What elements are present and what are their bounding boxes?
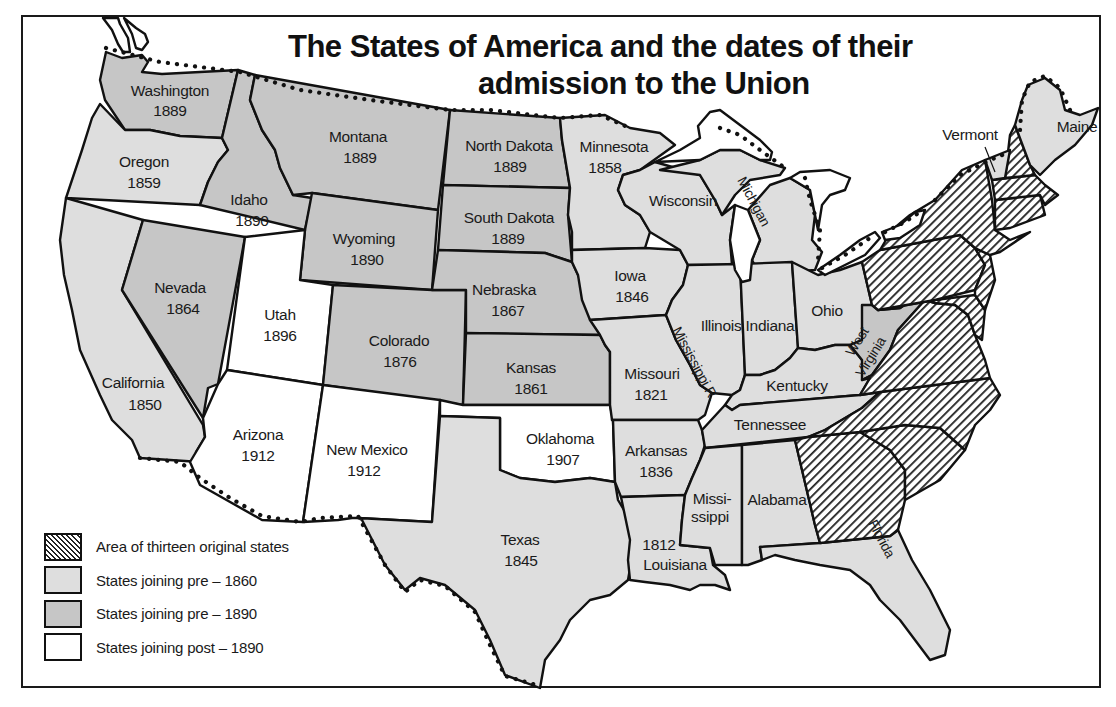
label-ohio: Ohio xyxy=(811,302,843,319)
label-iowa: Iowa xyxy=(614,267,646,284)
label-nevada-year: 1864 xyxy=(166,300,200,317)
label-vermont: Vermont xyxy=(942,126,999,143)
label-missouri-year: 1821 xyxy=(634,386,667,403)
label-north-dakota-year: 1889 xyxy=(493,158,526,175)
label-colorado-year: 1876 xyxy=(383,353,416,370)
label-kentucky: Kentucky xyxy=(766,377,828,394)
label-illinois: Illinois xyxy=(701,317,742,334)
legend-label: Area of thirteen original states xyxy=(96,538,289,555)
label-north-dakota: North Dakota xyxy=(465,137,553,154)
label-oklahoma-year: 1907 xyxy=(546,451,579,468)
title-line-2: admission to the Union xyxy=(270,65,990,102)
label-nevada: Nevada xyxy=(154,279,206,296)
label-kansas: Kansas xyxy=(506,359,556,376)
legend-item-pre1890: States joining pre – 1890 xyxy=(44,597,289,631)
light-gray-swatch-icon xyxy=(44,566,82,594)
label-south-dakota-year: 1889 xyxy=(491,230,524,247)
gray-swatch-icon xyxy=(44,600,82,628)
label-wisconsin: Wisconsin xyxy=(649,192,717,209)
label-texas-year: 1845 xyxy=(504,552,537,569)
label-washington: Washington xyxy=(131,82,209,99)
lake-superior xyxy=(655,110,772,162)
label-arkansas: Arkansas xyxy=(625,442,688,459)
label-arizona: Arizona xyxy=(233,426,284,443)
label-california-year: 1850 xyxy=(128,396,162,413)
legend-item-post1890: States joining post – 1890 xyxy=(44,631,289,665)
label-utah-year: 1896 xyxy=(263,327,296,344)
label-nebraska-year: 1867 xyxy=(491,302,524,319)
label-california: California xyxy=(102,374,165,391)
state-arizona[interactable] xyxy=(190,370,323,522)
label-new-mexico: New Mexico xyxy=(326,441,407,458)
label-oklahoma: Oklahoma xyxy=(526,430,595,447)
label-missouri: Missouri xyxy=(624,365,679,382)
map-title: The States of America and the dates of t… xyxy=(270,28,990,102)
legend-item-pre1860: States joining pre – 1860 xyxy=(44,564,289,598)
label-minnesota: Minnesota xyxy=(580,138,649,155)
label-arizona-year: 1912 xyxy=(241,447,274,464)
label-mississippi-2: ssippi xyxy=(691,508,729,525)
label-tennessee: Tennessee xyxy=(734,416,806,433)
label-montana-year: 1889 xyxy=(343,149,376,166)
label-washington-year: 1889 xyxy=(153,102,186,119)
label-oregon-year: 1859 xyxy=(127,174,160,191)
label-montana: Montana xyxy=(329,128,388,145)
label-idaho-year: 1890 xyxy=(235,212,269,229)
state-florida[interactable] xyxy=(760,530,950,660)
label-nebraska: Nebraska xyxy=(472,281,537,298)
label-oregon: Oregon xyxy=(119,153,169,170)
label-iowa-year: 1846 xyxy=(615,288,648,305)
label-utah: Utah xyxy=(264,306,296,323)
white-swatch-icon xyxy=(44,633,82,661)
label-arkansas-year: 1836 xyxy=(639,463,672,480)
label-kansas-year: 1861 xyxy=(514,380,547,397)
title-line-1: The States of America and the dates of t… xyxy=(270,28,990,65)
label-louisiana: Louisiana xyxy=(643,556,707,573)
legend-label: States joining pre – 1890 xyxy=(96,605,257,622)
label-wyoming: Wyoming xyxy=(333,230,395,247)
label-idaho: Idaho xyxy=(230,191,267,208)
label-south-dakota: South Dakota xyxy=(464,209,555,226)
legend-item-original: Area of thirteen original states xyxy=(44,530,289,564)
hatched-swatch-icon xyxy=(44,533,82,561)
label-new-mexico-year: 1912 xyxy=(347,462,380,479)
label-texas: Texas xyxy=(501,531,541,548)
label-colorado: Colorado xyxy=(369,332,430,349)
label-minnesota-year: 1858 xyxy=(588,159,621,176)
legend-label: States joining post – 1890 xyxy=(96,639,263,656)
label-alabama: Alabama xyxy=(747,491,807,508)
label-louisiana-year: 1812 xyxy=(642,536,675,553)
label-indiana: Indiana xyxy=(746,317,795,334)
label-wyoming-year: 1890 xyxy=(350,251,384,268)
legend: Area of thirteen original states States … xyxy=(44,530,289,664)
label-mississippi-1: Missi- xyxy=(693,490,732,507)
label-maine: Maine xyxy=(1057,118,1098,135)
legend-label: States joining pre – 1860 xyxy=(96,572,257,589)
